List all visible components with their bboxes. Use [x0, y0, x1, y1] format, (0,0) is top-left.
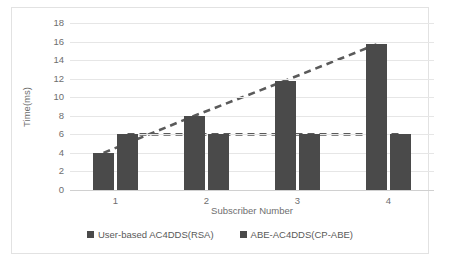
legend-swatch-icon — [87, 231, 94, 238]
plot-area: 0246810121416181234 — [70, 23, 434, 190]
bar — [390, 134, 411, 190]
bar — [299, 134, 320, 190]
bar — [366, 44, 387, 190]
y-axis-tick-label: 6 — [59, 130, 64, 140]
gridline — [70, 190, 434, 191]
y-axis-tick-label: 16 — [53, 37, 64, 47]
bar — [93, 153, 114, 190]
y-axis-tick-label: 14 — [53, 55, 64, 65]
y-axis-title: Time(ms) — [21, 87, 32, 127]
chart-legend: User-based AC4DDS(RSA) ABE-AC4DDS(CP-ABE… — [12, 229, 428, 240]
legend-swatch-icon — [240, 231, 247, 238]
y-axis-tick-label: 10 — [53, 92, 64, 102]
bar — [275, 81, 296, 190]
legend-item-series-2: ABE-AC4DDS(CP-ABE) — [240, 229, 353, 240]
y-axis-tick-label: 12 — [53, 74, 64, 84]
y-axis-tick-label: 18 — [53, 18, 64, 28]
legend-label: User-based AC4DDS(RSA) — [98, 229, 214, 240]
bar — [184, 116, 205, 190]
chart-figure: Time(ms) 0246810121416181234 Subscriber … — [11, 7, 429, 254]
gridline — [70, 23, 434, 24]
y-axis-tick-label: 4 — [59, 148, 64, 158]
y-axis-tick-label: 8 — [59, 111, 64, 121]
y-axis-tick-label: 0 — [59, 185, 64, 195]
bar — [208, 134, 229, 190]
gridline — [70, 42, 434, 43]
legend-item-series-1: User-based AC4DDS(RSA) — [87, 229, 214, 240]
legend-label: ABE-AC4DDS(CP-ABE) — [251, 229, 353, 240]
x-axis-title: Subscriber Number — [70, 205, 434, 216]
bar — [117, 134, 138, 190]
y-axis-tick-label: 2 — [59, 167, 64, 177]
